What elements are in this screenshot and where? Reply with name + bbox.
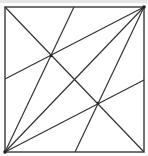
point-tr [142,5,146,9]
line-bl-right-mid [5,80,144,152]
geometry-diagram [0,0,148,156]
line-segments [5,7,144,152]
point-bl [3,150,7,154]
line-tr-left-mid [5,7,144,79]
line-tr-bottom-mid [75,7,144,152]
point-p2 [97,102,100,105]
point-p1 [50,55,53,58]
line-bl-top-mid [5,7,74,152]
